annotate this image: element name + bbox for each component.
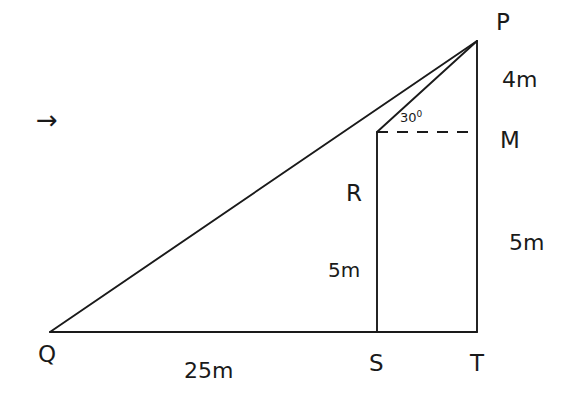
dimension-label-top-right: 4m	[502, 69, 537, 91]
segment-hypotenuse-QP	[50, 41, 477, 332]
dimension-label-inner-height: 5m	[328, 260, 360, 280]
vertex-label-S: S	[369, 352, 384, 375]
vertex-label-M: M	[500, 129, 520, 152]
vertex-label-P: P	[496, 11, 510, 34]
dimension-label-bottom-right: 5m	[509, 232, 544, 254]
angle-degree-symbol: 0	[417, 109, 423, 119]
angle-label-30-degrees: 300	[400, 110, 422, 124]
dimension-label-base: 25m	[184, 360, 233, 382]
vertex-label-Q: Q	[38, 343, 56, 366]
vertex-label-T: T	[470, 352, 484, 375]
vertex-label-R: R	[346, 182, 362, 205]
angle-value: 30	[400, 110, 417, 125]
diagram-canvas: P Q S T M R 4m 5m 5m 25m 300 →	[0, 0, 573, 408]
segment-sightline-RP	[377, 41, 477, 132]
geometry-figure	[0, 0, 573, 408]
right-arrow-icon: →	[36, 107, 58, 133]
